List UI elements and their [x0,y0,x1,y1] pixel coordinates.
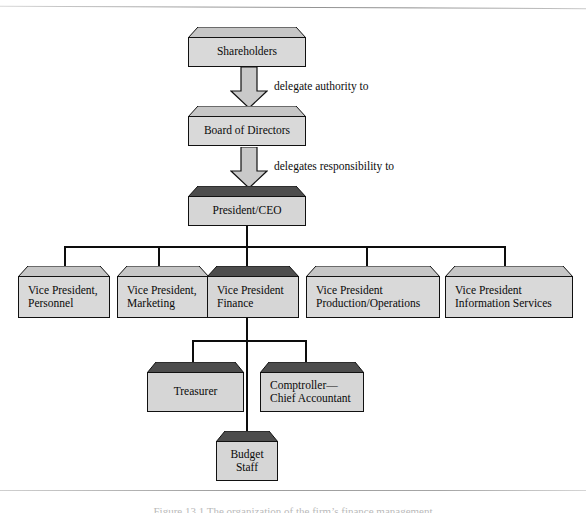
vp-personnel-label-0: Vice President, [28,284,100,298]
board-body: Board of Directors [188,116,306,146]
arrow-label-delegate-authority: delegate authority to [274,80,369,92]
connector-drop-vp-finance [246,246,248,268]
connector-finance-stem [246,318,248,340]
vp-finance-label-0: Vice President [217,284,289,298]
budget-staff-label-1: Staff [236,461,258,475]
ceo-label-0: President/CEO [213,204,282,218]
arrow-shareholders-to-board [230,67,268,109]
vp-production-body: Vice President Production/Operations [306,276,440,318]
comptroller-label-1: Chief Accountant [270,392,354,406]
vp-personnel-label-1: Personnel [28,297,100,311]
connector-ceo-stem [246,226,248,248]
figure-caption: Figure 13.1 The organization of the firm… [0,505,586,513]
vp-production-label-0: Vice President [316,284,430,298]
vp-marketing-label-0: Vice President, [127,284,199,298]
vp-marketing-body: Vice President, Marketing [117,276,209,318]
vp-personnel-body: Vice President, Personnel [18,276,110,318]
connector-budget-stem [246,340,248,432]
connector-drop-vp-personnel [64,246,66,268]
shareholders-body: Shareholders [188,37,306,67]
vp-infoserv-label-1: Information Services [455,297,563,311]
vp-production-label-1: Production/Operations [316,297,430,311]
connector-finance-bus [192,340,307,342]
arrow-label-delegates-responsibility: delegates responsibility to [274,160,394,172]
board-label-0: Board of Directors [204,124,290,138]
vp-finance-label-1: Finance [217,297,289,311]
treasurer-label-0: Treasurer [174,385,218,399]
shareholders-label-0: Shareholders [217,45,277,59]
top-rule [0,6,586,9]
vp-finance-body: Vice President Finance [207,276,299,318]
connector-drop-vp-production [366,246,368,268]
vp-marketing-label-1: Marketing [127,297,199,311]
connector-vp-bus [64,246,506,248]
vp-infoserv-body: Vice President Information Services [445,276,573,318]
org-chart-diagram: Shareholders delegate authority to Board… [0,0,586,513]
treasurer-body: Treasurer [147,372,244,412]
budget-staff-body: Budget Staff [216,441,278,481]
comptroller-label-0: Comptroller— [270,379,354,393]
vp-infoserv-label-0: Vice President [455,284,563,298]
connector-drop-vp-marketing [158,246,160,268]
budget-staff-label-0: Budget [230,448,263,462]
bottom-rule [0,490,586,491]
arrow-board-to-ceo [230,147,268,189]
ceo-body: President/CEO [188,196,306,226]
connector-drop-vp-infoserv [504,246,506,268]
connector-drop-comptroller [305,340,307,363]
comptroller-body: Comptroller— Chief Accountant [260,372,364,412]
connector-drop-treasurer [192,340,194,363]
